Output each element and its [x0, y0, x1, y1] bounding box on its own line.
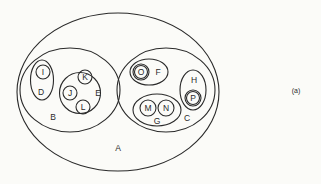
set-m-label: M — [144, 103, 151, 113]
set-f-label: F — [155, 67, 160, 77]
figure-caption: (a) — [292, 87, 301, 95]
set-c-boundary — [117, 48, 215, 132]
set-n-label: N — [163, 103, 169, 113]
set-diagram: A B D I E K J L C F O G M N H P (a) — [0, 0, 321, 184]
set-p-label: P — [190, 93, 196, 103]
set-o-label: O — [138, 67, 145, 77]
set-c-label: C — [184, 113, 190, 123]
set-h-label: H — [191, 75, 197, 85]
set-k-label: K — [82, 72, 88, 82]
set-l-label: L — [81, 102, 86, 112]
set-g-label: G — [154, 116, 161, 126]
set-b-label: B — [50, 112, 56, 122]
set-e-label: E — [95, 88, 101, 98]
set-i-label: I — [42, 67, 44, 77]
set-j-label: J — [68, 88, 72, 98]
set-d-label: D — [38, 87, 44, 97]
set-a-label: A — [115, 143, 121, 153]
